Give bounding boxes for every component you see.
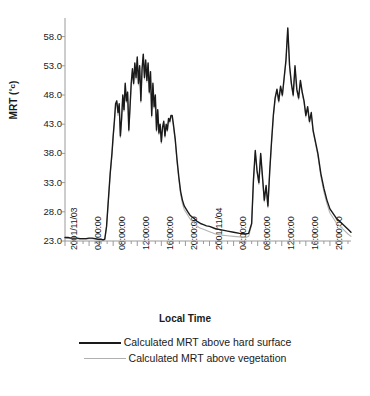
- legend-item: Calculated MRT above hard surface: [79, 336, 292, 349]
- legend-item: Calculated MRT above vegetation: [84, 352, 287, 365]
- series-line: [65, 28, 351, 240]
- legend-line-icon-vegetation: [84, 358, 126, 359]
- legend-label: Calculated MRT above hard surface: [124, 336, 292, 349]
- legend-line-icon-hard-surface: [79, 342, 121, 344]
- legend-label: Calculated MRT above vegetation: [129, 352, 287, 365]
- chart-legend: Calculated MRT above hard surface Calcul…: [0, 336, 370, 365]
- chart-figure: MRT (°c) 23.028.033.038.043.048.053.058.…: [0, 0, 370, 396]
- x-axis-title: Local Time: [0, 313, 370, 324]
